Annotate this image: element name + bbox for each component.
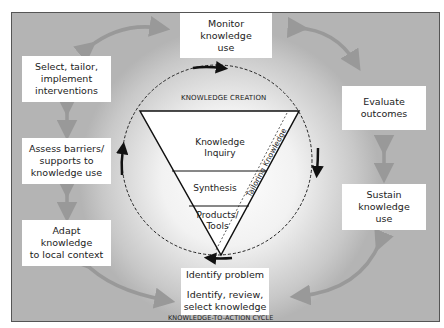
layer-products-line2: Tools — [190, 221, 245, 232]
phase-monitor-line3: use — [200, 42, 252, 54]
phase-monitor-line2: knowledge — [200, 30, 252, 42]
layer-inquiry-line1: Knowledge — [180, 137, 260, 148]
layer-inquiry-line2: Inquiry — [180, 148, 260, 159]
arrow-top — [193, 67, 222, 68]
identify-problem-label: Identify problem — [181, 269, 269, 281]
phase-assess: Assess barriers/supports toknowledge use — [22, 138, 111, 184]
cycle-title: KNOWLEDGE-TO-ACTION CYCLE — [168, 314, 273, 322]
phase-adapt-line2: knowledge — [30, 237, 104, 249]
phase-select: Select, tailor,implementinterventions — [22, 56, 111, 102]
arrow-adapt-bottom — [84, 262, 165, 300]
arrow-right — [317, 148, 318, 172]
phase-select-line2: implement — [35, 73, 98, 85]
identify-review-line1: Identify, review, — [181, 289, 269, 301]
phase-sustain-line2: knowledge — [358, 201, 410, 213]
knowledge-creation-title: KNOWLEDGE CREATION — [181, 94, 266, 102]
phase-monitor: Monitorknowledgeuse — [180, 13, 272, 58]
phase-evaluate-line1: Evaluate — [361, 96, 408, 108]
phase-sustain: Sustainknowledgeuse — [342, 184, 426, 230]
layer-products-line1: Products/ — [190, 210, 245, 221]
phase-assess-line2: supports to — [29, 155, 104, 167]
layer-synthesis: Synthesis — [185, 183, 245, 194]
arrow-sustain-bottom — [300, 242, 380, 296]
phase-sustain-line1: Sustain — [358, 189, 410, 201]
phase-assess-line1: Assess barriers/ — [29, 143, 104, 155]
layer-synthesis-line1: Synthesis — [185, 183, 245, 194]
phase-sustain-line3: use — [358, 213, 410, 225]
phase-adapt-line1: Adapt — [30, 225, 104, 237]
phase-assess-line3: knowledge use — [29, 167, 104, 179]
phase-adapt-line3: to local context — [30, 249, 104, 261]
layer-inquiry: Knowledge Inquiry — [180, 137, 260, 159]
identify-review-line2: select knowledge — [181, 301, 269, 313]
phase-adapt: Adaptknowledgeto local context — [22, 220, 111, 266]
arrow-left — [122, 148, 123, 175]
phase-evaluate-line2: outcomes — [361, 108, 408, 120]
identify-box: Identify problem Identify, review, selec… — [181, 268, 269, 315]
arrow-bottom — [210, 258, 232, 259]
arrow-monitor-evaluate — [298, 28, 355, 62]
layer-products: Products/ Tools — [190, 210, 245, 232]
phase-select-line3: interventions — [35, 85, 98, 97]
phase-select-line1: Select, tailor, — [35, 61, 98, 73]
phase-monitor-line1: Monitor — [200, 18, 252, 30]
arrow-select-monitor — [88, 27, 160, 48]
phase-evaluate: Evaluateoutcomes — [342, 86, 426, 130]
